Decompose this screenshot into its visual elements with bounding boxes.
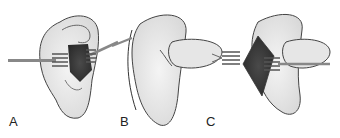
ear-surgery-drawing	[0, 0, 340, 138]
medical-illustration	[0, 0, 340, 138]
panel-c-ear	[212, 14, 330, 114]
panel-label-a: A	[9, 114, 18, 129]
panel-label-b: B	[120, 114, 129, 129]
panel-b-ear	[112, 15, 222, 125]
panel-label-c: C	[206, 114, 215, 129]
panel-a-ear	[8, 16, 118, 118]
